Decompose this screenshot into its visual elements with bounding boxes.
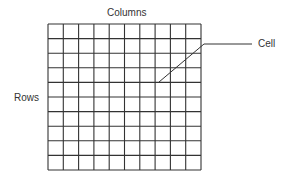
cell-callout-line bbox=[159, 44, 252, 82]
grid-diagram bbox=[0, 0, 285, 180]
table-grid bbox=[48, 24, 201, 170]
